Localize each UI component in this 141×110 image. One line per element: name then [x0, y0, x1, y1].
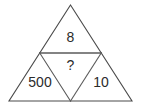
- top-triangle-label: 8: [67, 29, 75, 45]
- bottom-left-triangle-label: 500: [28, 74, 52, 90]
- bottom-right-triangle-label: 10: [93, 74, 109, 90]
- center-triangle-label: ?: [67, 57, 75, 73]
- triangle-puzzle-figure: 8 ? 500 10: [0, 0, 141, 110]
- triangle-diagram: 8 ? 500 10: [0, 0, 141, 110]
